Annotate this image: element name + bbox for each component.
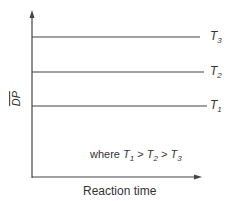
label-t1: T1 [210, 98, 222, 114]
y-axis-label: DP [9, 91, 22, 106]
x-axis-label: Reaction time [83, 184, 156, 198]
label-t2: T2 [210, 64, 222, 80]
plot-area [0, 0, 232, 201]
label-t3: T3 [210, 29, 222, 45]
y-axis-arrow-icon [30, 10, 35, 18]
x-axis-arrow-icon [194, 175, 202, 180]
annotation: where T1 > T2 > T3 [90, 148, 182, 163]
